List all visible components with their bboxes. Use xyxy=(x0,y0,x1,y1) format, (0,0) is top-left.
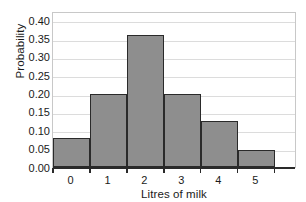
x-axis-tick-mark xyxy=(200,168,202,173)
bar xyxy=(238,150,275,167)
x-axis-tick-mark xyxy=(274,168,276,173)
y-axis-tick-label: 0.40 xyxy=(18,16,50,27)
y-axis-tick-label: 0.35 xyxy=(18,34,50,45)
y-axis-tick-label: 0.30 xyxy=(18,52,50,63)
x-axis-tick-label: 4 xyxy=(206,174,230,187)
y-axis-tick-label: 0.00 xyxy=(18,163,50,174)
x-axis-tick-label: 3 xyxy=(169,174,193,187)
x-axis-tick-mark xyxy=(52,168,54,173)
x-axis-tick-mark xyxy=(126,168,128,173)
x-axis-tick-mark xyxy=(237,168,239,173)
x-axis-tick-label: 1 xyxy=(95,174,119,187)
y-axis-tick-label: 0.15 xyxy=(18,107,50,118)
bar xyxy=(201,121,238,167)
y-axis-tick-label: 0.05 xyxy=(18,144,50,155)
y-axis-tick-label: 0.20 xyxy=(18,89,50,100)
x-axis-tick-label: 2 xyxy=(132,174,156,187)
y-axis-tick-label: 0.25 xyxy=(18,71,50,82)
bar xyxy=(127,35,164,167)
x-axis-tick-label: 0 xyxy=(58,174,82,187)
bars-layer xyxy=(53,13,295,167)
x-axis-tick-mark xyxy=(89,168,91,173)
bar xyxy=(164,94,201,167)
x-axis-title: Litres of milk xyxy=(52,188,296,201)
y-axis-tick-labels: 0.000.050.100.150.200.250.300.350.40 xyxy=(18,0,50,202)
y-axis-tick-label: 0.10 xyxy=(18,126,50,137)
bar xyxy=(53,138,90,167)
x-axis-tick-mark xyxy=(163,168,165,173)
probability-bar-chart: Probability 0.000.050.100.150.200.250.30… xyxy=(0,0,306,202)
plot-area xyxy=(52,12,296,168)
bar xyxy=(90,94,127,167)
x-axis-tick-label: 5 xyxy=(243,174,267,187)
